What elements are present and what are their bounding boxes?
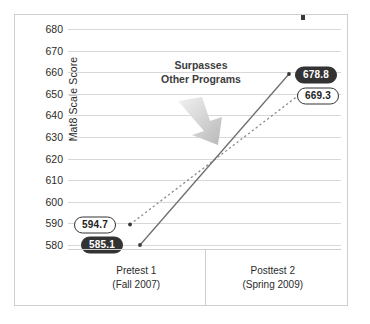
series-line-solid (140, 74, 289, 245)
top-edge-artifact (301, 15, 305, 20)
x-category-label-line-2: (Spring 2009) (242, 278, 303, 293)
data-point-594-7 (128, 223, 132, 227)
y-tick-label-650: 650 (45, 88, 63, 100)
y-tick-label-670: 670 (45, 45, 63, 57)
plot-area: 680 670 660 650 640 630 620 610 600 590 … (68, 29, 341, 245)
x-axis-category-pretest-1: Pretest 1 (Fall 2007) (68, 250, 205, 306)
y-tick-label-640: 640 (45, 109, 63, 121)
value-label-594-7: 594.7 (74, 217, 116, 234)
annotation-line-2: Other Programs (126, 72, 276, 86)
y-tick-label-600: 600 (45, 196, 63, 208)
value-label-678-8: 678.8 (295, 67, 337, 84)
y-tick-label-590: 590 (45, 217, 63, 229)
y-tick-label-630: 630 (45, 131, 63, 143)
y-tick-label-660: 660 (45, 66, 63, 78)
data-point-678-8 (287, 72, 291, 76)
annotation-surpasses-other-programs: Surpasses Other Programs (126, 58, 276, 86)
x-category-label-line-1: Posttest 2 (251, 264, 295, 279)
annotation-line-1: Surpasses (126, 58, 276, 72)
value-label-669-3: 669.3 (297, 88, 339, 105)
x-axis: Pretest 1 (Fall 2007) Posttest 2 (Spring… (68, 249, 341, 306)
x-category-label-line-1: Pretest 1 (116, 264, 156, 279)
series-program-solid (138, 72, 291, 247)
chart-figure: Mat8 Scale Score 680 670 660 650 640 630… (14, 14, 348, 306)
x-category-label-line-2: (Fall 2007) (112, 278, 160, 293)
x-axis-category-posttest-2: Posttest 2 (Spring 2009) (205, 250, 342, 306)
y-tick-label-620: 620 (45, 153, 63, 165)
y-tick-label-580: 580 (45, 239, 63, 251)
data-point-585-1 (138, 243, 142, 247)
y-tick-label-680: 680 (45, 23, 63, 35)
y-tick-label-610: 610 (45, 174, 63, 186)
